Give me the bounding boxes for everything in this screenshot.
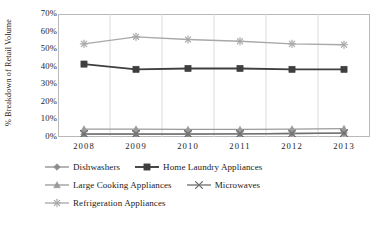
marker-diamond — [54, 164, 61, 171]
data-point-marker-square — [341, 66, 347, 72]
legend-item-label: Large Cooking Appliances — [73, 180, 172, 190]
data-point-marker-square — [237, 65, 243, 71]
x-axis-tick-label: 2010 — [162, 141, 214, 151]
legend-item[interactable]: Large Cooking Appliances — [44, 179, 172, 191]
data-point-marker-square — [289, 66, 295, 72]
legend-marker-asterisk — [44, 197, 70, 209]
data-point-marker-square — [185, 65, 191, 71]
data-point-marker-asterisk — [80, 40, 87, 47]
legend-marker-x — [186, 179, 212, 191]
x-axis-tick-label: 2008 — [58, 141, 110, 151]
data-point-marker-asterisk — [184, 36, 191, 43]
chart-legend: DishwashersHome Laundry AppliancesLarge … — [44, 158, 374, 212]
y-axis-tick-label: 60% — [41, 27, 57, 36]
y-axis-tick-label: 40% — [41, 62, 57, 71]
data-point-marker-asterisk — [53, 199, 60, 206]
marker-square — [144, 164, 150, 170]
data-point-marker-square — [144, 164, 150, 170]
legend-row: DishwashersHome Laundry Appliances — [44, 158, 374, 176]
legend-item[interactable]: Dishwashers — [44, 161, 120, 173]
data-point-marker-asterisk — [288, 40, 295, 47]
legend-row: Refrigeration Appliances — [44, 194, 374, 212]
marker-square — [289, 66, 295, 72]
y-axis-tick-label: 10% — [41, 114, 57, 123]
plot-area — [58, 14, 370, 137]
legend-marker-diamond — [44, 161, 70, 173]
x-axis-tick-label: 2013 — [318, 141, 370, 151]
y-axis-title: % Breakdown of Retail Volume — [0, 0, 18, 145]
legend-item[interactable]: Refrigeration Appliances — [44, 197, 166, 209]
marker-square — [81, 61, 87, 67]
legend-item-label: Refrigeration Appliances — [73, 198, 166, 208]
data-point-marker-asterisk — [340, 41, 347, 48]
legend-marker-square — [134, 161, 160, 173]
x-axis-tick-label: 2012 — [266, 141, 318, 151]
legend-row: Large Cooking AppliancesMicrowaves — [44, 176, 374, 194]
data-point-marker-diamond — [54, 164, 61, 171]
legend-marker-triangle — [44, 179, 70, 191]
x-axis-tick-label: 2011 — [214, 141, 266, 151]
y-axis-tick-label: 70% — [41, 9, 57, 18]
marker-square — [341, 66, 347, 72]
data-point-marker-square — [81, 61, 87, 67]
marker-square — [133, 66, 139, 72]
y-axis-tick-label: 20% — [41, 97, 57, 106]
data-point-marker-asterisk — [236, 38, 243, 45]
y-axis-tick-label: 0% — [45, 132, 57, 141]
series-line — [84, 133, 344, 134]
x-axis-tick-labels: 200820092010201120122013 — [58, 139, 370, 153]
legend-item[interactable]: Microwaves — [186, 179, 261, 191]
legend-item-label: Dishwashers — [73, 162, 120, 172]
marker-square — [237, 65, 243, 71]
x-axis-tick-label: 2009 — [110, 141, 162, 151]
y-axis-tick-label: 50% — [41, 44, 57, 53]
legend-item-label: Home Laundry Appliances — [163, 162, 262, 172]
y-axis-title-text: % Breakdown of Retail Volume — [5, 19, 14, 126]
y-axis-tick-label: 30% — [41, 79, 57, 88]
data-point-marker-asterisk — [132, 33, 139, 40]
data-point-marker-square — [133, 66, 139, 72]
line-chart: % Breakdown of Retail Volume 70%60%50%40… — [0, 0, 384, 228]
legend-item-label: Microwaves — [215, 180, 261, 190]
y-axis-tick-labels: 70%60%50%40%30%20%10%0% — [17, 0, 57, 145]
marker-square — [185, 65, 191, 71]
legend-item[interactable]: Home Laundry Appliances — [134, 161, 262, 173]
